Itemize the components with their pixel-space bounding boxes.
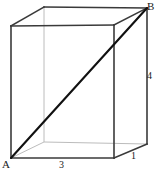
hidden-edge-back-bottom [44,142,147,144]
edge-top-right-receding [114,8,147,25]
edge-back-top [44,7,147,8]
space-diagonal-ab [11,8,147,158]
geometry-figure: A B 3 1 4 [0,0,157,172]
prism-drawing [0,0,157,172]
edge-top-left-receding [11,7,44,26]
vertex-label-a: A [2,159,10,170]
measure-label-depth: 1 [131,151,136,161]
edge-front-top [11,25,114,26]
measure-label-height: 4 [147,71,152,81]
hidden-edge-bottom-left-receding [11,142,44,158]
measure-label-width: 3 [59,160,64,170]
vertex-label-b: B [147,1,154,12]
